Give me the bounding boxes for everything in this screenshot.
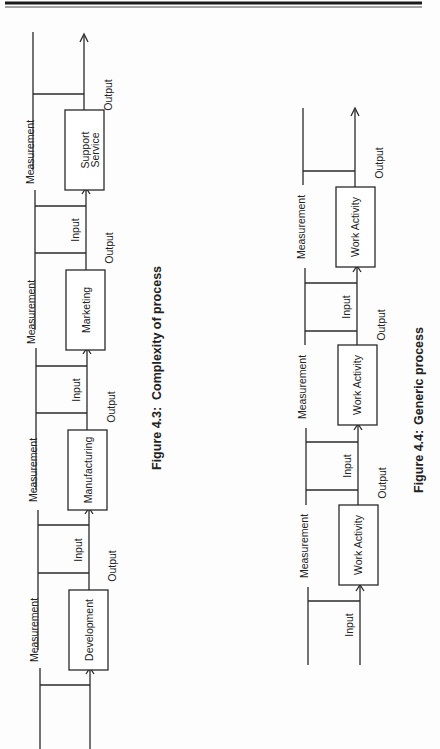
measurement-label: Measurement — [28, 598, 40, 662]
output-label: Output — [373, 147, 385, 179]
output-label: Output — [103, 232, 115, 264]
measurement-label: Measurement — [298, 514, 310, 578]
work-activity-label: Work Activity — [349, 196, 361, 257]
input-label: Input — [72, 538, 84, 561]
figure-4-3-caption-title: Complexity of process — [150, 266, 164, 400]
measurement-label: Measurement — [27, 438, 39, 502]
output-label: Output — [376, 467, 388, 499]
measurement-label: Measurement — [24, 120, 36, 184]
figure-4-4-caption-title: Generic process — [412, 327, 426, 425]
output-label: Output — [375, 309, 387, 341]
page-canvas: Support Service Marketing Manufacturing … — [0, 0, 440, 749]
work-activity-label: Work Activity — [352, 514, 364, 575]
output-label: Output — [106, 550, 118, 582]
stage-label-service: Service — [89, 132, 101, 167]
measurement-label: Measurement — [25, 280, 37, 344]
figure-4-3-caption-number: Figure 4.3: — [150, 407, 164, 470]
measurement-label: Measurement — [295, 195, 307, 259]
input-label: Input — [340, 295, 352, 318]
output-label: Output — [102, 79, 114, 111]
figure-4-3-labels: Support Service Marketing Manufacturing … — [24, 79, 164, 662]
input-label: Input — [343, 613, 355, 636]
input-label: Input — [341, 454, 353, 477]
input-label: Input — [69, 218, 81, 241]
book-page: Support Service Marketing Manufacturing … — [0, 0, 440, 749]
work-activity-label: Work Activity — [351, 354, 363, 415]
stage-label-marketing: Marketing — [80, 287, 92, 333]
stage-label-manufacturing: Manufacturing — [82, 437, 94, 504]
measurement-label: Measurement — [296, 355, 308, 419]
figure-4-4-diagram — [303, 108, 378, 665]
figure-4-4-caption-number: Figure 4.4: — [412, 430, 426, 493]
output-label: Output — [105, 391, 117, 423]
header-rule — [5, 3, 422, 7]
stage-label-development: Development — [83, 599, 95, 661]
input-label: Input — [70, 378, 82, 401]
figure-4-4-labels: Work Activity Work Activity Work Activit… — [295, 147, 426, 637]
